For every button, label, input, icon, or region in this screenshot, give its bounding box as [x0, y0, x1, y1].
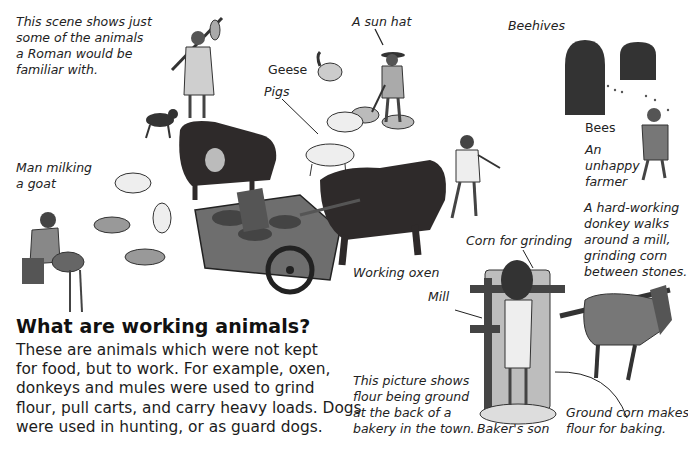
beehives-label: Beehives — [508, 18, 565, 34]
mill-label: Mill — [428, 289, 449, 305]
illustrated-page: This scene shows justsome of the animals… — [0, 0, 688, 449]
geese-label: Geese — [268, 62, 307, 78]
unhappy-farmer-label: Anunhappyfarmer — [585, 142, 640, 190]
pigs-label: Pigs — [264, 84, 289, 100]
sun-hat-label: A sun hat — [352, 14, 411, 30]
working-oxen-label: Working oxen — [353, 265, 439, 281]
man-milking-label: Man milkinga goat — [16, 160, 92, 192]
intro-caption: This scene shows justsome of the animals… — [16, 14, 152, 78]
bees-label: Bees — [585, 120, 615, 136]
beehives-icon — [565, 40, 669, 115]
farmer-with-sun-hat-icon — [372, 29, 405, 122]
unhappy-farmer-icon — [642, 108, 668, 180]
donkey-caption: A hard-workingdonkey walks around a mill… — [584, 200, 687, 280]
cow-icon — [179, 121, 276, 200]
pigs-icon — [306, 112, 363, 176]
cart-icon — [195, 188, 340, 292]
man-milking-goat-icon — [22, 212, 84, 312]
corn-for-grinding-label: Corn for grinding — [466, 233, 572, 249]
mill-icon — [470, 270, 670, 424]
section-body: These are animals which were not kept fo… — [16, 341, 362, 437]
ground-corn-label: Ground corn makesflour for baking. — [566, 405, 688, 437]
bakers-son-label: Baker's son — [477, 421, 549, 437]
dog-icon — [146, 109, 178, 138]
boy-leading-oxen-icon — [452, 135, 500, 218]
man-carrying-pole-icon — [172, 18, 222, 118]
section-heading: What are working animals? — [16, 315, 310, 337]
picture-caption: This picture showsflour being ground at … — [353, 373, 475, 437]
donkey-icon — [584, 285, 672, 380]
